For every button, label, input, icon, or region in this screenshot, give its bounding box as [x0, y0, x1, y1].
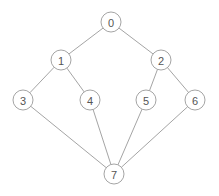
graph-node-label-2: 2	[158, 55, 164, 67]
graph-diagram: 01234567	[0, 0, 219, 196]
graph-edge-0-1	[69, 28, 103, 54]
graph-edge-0-2	[119, 28, 153, 54]
graph-edge-2-6	[167, 68, 188, 93]
graph-node-6[interactable]: 6	[185, 90, 205, 110]
graph-node-label-5: 5	[143, 95, 149, 107]
graph-node-3[interactable]: 3	[13, 90, 33, 110]
graph-edge-6-7	[121, 107, 187, 168]
graph-node-2[interactable]: 2	[151, 50, 171, 70]
edge-layer	[30, 28, 189, 168]
graph-edge-2-5	[150, 69, 158, 90]
graph-node-label-6: 6	[192, 95, 198, 107]
graph-edge-4-7	[93, 110, 111, 165]
graph-node-label-4: 4	[87, 95, 93, 107]
graph-edge-1-4	[67, 68, 84, 92]
graph-node-label-1: 1	[58, 55, 64, 67]
graph-node-label-0: 0	[108, 17, 114, 29]
graph-node-4[interactable]: 4	[80, 90, 100, 110]
graph-node-label-7: 7	[111, 169, 117, 181]
graph-edge-5-7	[118, 109, 142, 165]
graph-node-7[interactable]: 7	[104, 164, 124, 184]
graph-node-5[interactable]: 5	[136, 90, 156, 110]
graph-edge-1-3	[30, 67, 54, 93]
graph-node-1[interactable]: 1	[51, 50, 71, 70]
graph-node-0[interactable]: 0	[101, 12, 121, 32]
graph-node-label-3: 3	[20, 95, 26, 107]
